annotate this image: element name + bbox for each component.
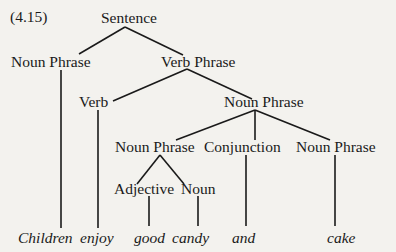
node-noun-phrase-subject: Noun Phrase — [11, 54, 91, 70]
word-cake: cake — [327, 230, 355, 246]
figure-number: (4.15) — [10, 9, 47, 25]
word-good: good — [134, 230, 165, 246]
word-enjoy: enjoy — [80, 230, 114, 246]
word-and: and — [232, 230, 255, 246]
node-noun-phrase-left: Noun Phrase — [115, 139, 195, 155]
node-sentence: Sentence — [101, 10, 157, 26]
node-noun-phrase-object: Noun Phrase — [224, 94, 304, 110]
node-verb-phrase: Verb Phrase — [161, 54, 235, 70]
node-noun: Noun — [181, 181, 215, 197]
word-children: Children — [18, 230, 73, 246]
node-noun-phrase-right: Noun Phrase — [296, 139, 376, 155]
node-adjective: Adjective — [114, 181, 174, 197]
tree-edges — [0, 0, 396, 252]
node-verb: Verb — [79, 94, 108, 110]
node-conjunction: Conjunction — [204, 139, 281, 155]
word-candy: candy — [172, 230, 209, 246]
